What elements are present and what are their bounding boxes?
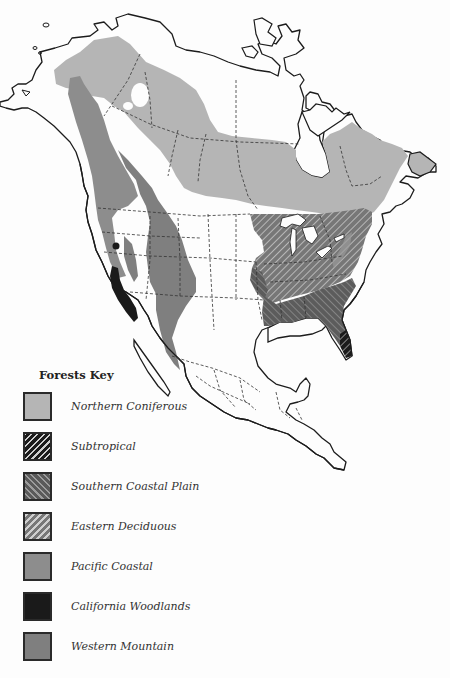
key-label: California Woodlands xyxy=(71,600,190,613)
key-item-western-mountain: Western Mountain xyxy=(23,630,174,662)
key-item-california-woodlands: California Woodlands xyxy=(23,590,190,622)
map-title-fragment xyxy=(250,0,340,3)
key-label: Eastern Deciduous xyxy=(71,520,177,533)
key-title: Forests Key xyxy=(39,368,114,382)
key-label: Southern Coastal Plain xyxy=(71,480,199,493)
swatch-california-woodlands xyxy=(23,592,52,621)
key-item-pacific-coastal: Pacific Coastal xyxy=(23,550,153,582)
forests-key: Forests Key Northern Coniferous Subtropi… xyxy=(23,368,114,390)
swatch-northern-coniferous xyxy=(23,392,52,421)
key-item-subtropical: Subtropical xyxy=(23,430,136,462)
key-label: Subtropical xyxy=(71,440,136,453)
swatch-pacific-coastal xyxy=(23,552,52,581)
key-item-southern-coastal-plain: Southern Coastal Plain xyxy=(23,470,199,502)
swatch-western-mountain xyxy=(23,632,52,661)
swatch-eastern-deciduous xyxy=(23,512,52,541)
key-item-eastern-deciduous: Eastern Deciduous xyxy=(23,510,177,542)
key-label: Pacific Coastal xyxy=(71,560,153,573)
key-label: Western Mountain xyxy=(71,640,174,653)
swatch-southern-coastal-plain xyxy=(23,472,52,501)
swatch-subtropical xyxy=(23,432,52,461)
key-item-northern-coniferous: Northern Coniferous xyxy=(23,390,187,422)
key-label: Northern Coniferous xyxy=(71,400,187,413)
